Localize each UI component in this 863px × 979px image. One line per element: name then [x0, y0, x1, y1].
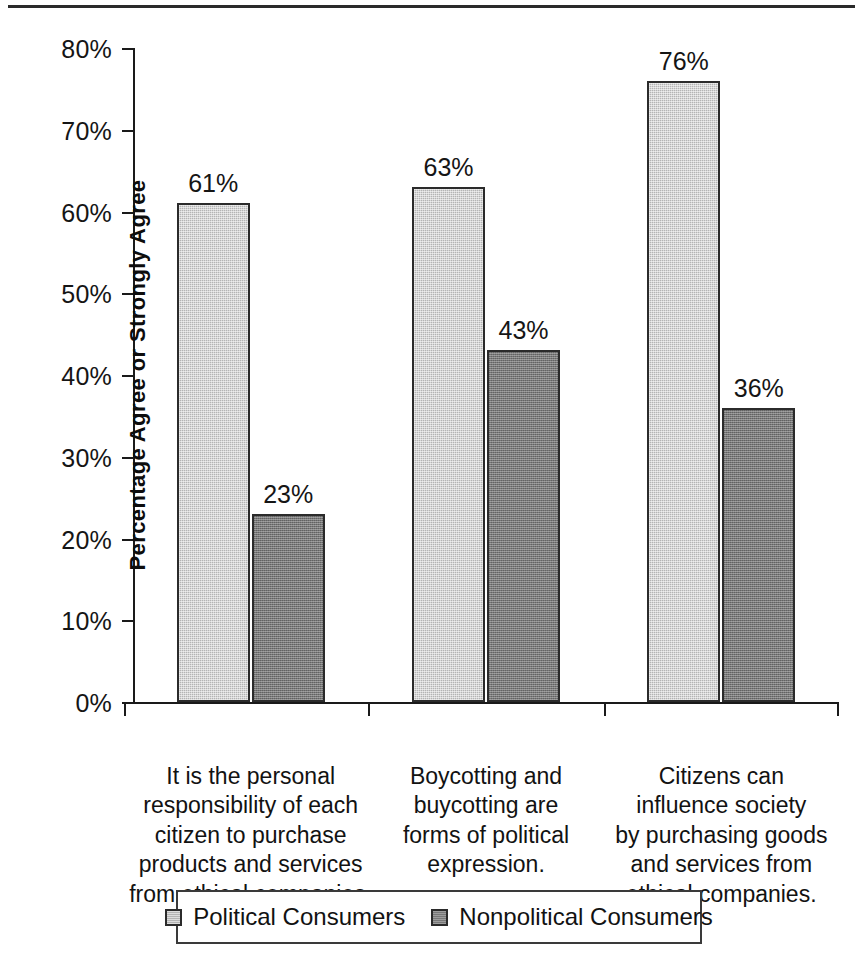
- chart-legend: Political ConsumersNonpolitical Consumer…: [176, 890, 702, 944]
- bar-value-label: 61%: [188, 169, 238, 198]
- y-axis-tick: 80%: [122, 48, 133, 50]
- bar-value-label: 36%: [734, 374, 784, 403]
- legend-entry[interactable]: Nonpolitical Consumers: [431, 903, 712, 931]
- category-label-line: influence society: [594, 791, 849, 820]
- x-axis-category-label: Boycotting andbuycotting areforms of pol…: [358, 762, 613, 880]
- y-axis-tick: 60%: [122, 212, 133, 214]
- top-divider-rule: [8, 5, 855, 8]
- category-label-line: citizen to purchase: [123, 821, 378, 850]
- y-axis-tick: 20%: [122, 539, 133, 541]
- y-axis-tick-label: 60%: [61, 198, 112, 227]
- bar: 61%: [177, 203, 250, 702]
- y-axis-tick-label: 70%: [61, 116, 112, 145]
- category-label-line: products and services: [123, 850, 378, 879]
- x-axis-line: [124, 702, 839, 704]
- x-axis-group-separator: [368, 702, 370, 716]
- category-label-line: forms of political: [358, 821, 613, 850]
- chart-page: Percentage Agree or Strongly Agree 0%10%…: [0, 0, 863, 979]
- category-label-line: It is the personal: [123, 762, 378, 791]
- y-axis-tick: 40%: [122, 375, 133, 377]
- legend-label: Nonpolitical Consumers: [459, 903, 712, 931]
- y-axis-tick-label: 20%: [61, 525, 112, 554]
- category-label-line: Boycotting and: [358, 762, 613, 791]
- bar-value-label: 23%: [263, 480, 313, 509]
- bar: 43%: [487, 350, 560, 702]
- x-axis-group-separator: [837, 702, 839, 716]
- bar: 76%: [647, 81, 720, 702]
- legend-swatch-icon: [165, 909, 182, 926]
- y-axis-tick-label: 30%: [61, 443, 112, 472]
- y-axis-tick-label: 10%: [61, 607, 112, 636]
- legend-entry[interactable]: Political Consumers: [165, 903, 405, 931]
- x-axis-category-label: It is the personalresponsibility of each…: [123, 762, 378, 909]
- category-label-line: expression.: [358, 850, 613, 879]
- bar: 23%: [252, 514, 325, 702]
- y-axis-tick: 50%: [122, 293, 133, 295]
- y-axis-tick: 70%: [122, 130, 133, 132]
- category-label-line: responsibility of each: [123, 791, 378, 820]
- y-axis-tick-label: 0%: [75, 689, 112, 718]
- legend-label: Political Consumers: [193, 903, 405, 931]
- category-label-line: and services from: [594, 850, 849, 879]
- y-axis-tick-label: 50%: [61, 280, 112, 309]
- plot-area: Percentage Agree or Strongly Agree 0%10%…: [133, 48, 839, 702]
- category-label-line: Citizens can: [594, 762, 849, 791]
- x-axis-category-label: Citizens caninfluence societyby purchasi…: [594, 762, 849, 909]
- bar: 63%: [412, 187, 485, 702]
- x-axis-group-separator: [124, 702, 126, 716]
- bar-value-label: 43%: [498, 316, 548, 345]
- y-axis-tick-label: 40%: [61, 362, 112, 391]
- category-label-line: buycotting are: [358, 791, 613, 820]
- category-label-line: by purchasing goods: [594, 821, 849, 850]
- x-axis-group-separator: [604, 702, 606, 716]
- y-axis-tick: 30%: [122, 457, 133, 459]
- bar-value-label: 76%: [659, 47, 709, 76]
- y-axis-tick-label: 80%: [61, 35, 112, 64]
- y-axis-tick: 10%: [122, 620, 133, 622]
- bar-value-label: 63%: [423, 153, 473, 182]
- legend-swatch-icon: [431, 909, 448, 926]
- bar: 36%: [722, 408, 795, 702]
